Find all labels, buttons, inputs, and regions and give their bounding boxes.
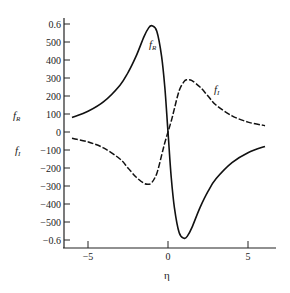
y-ticks: 0.65004003002001000−100−200−300−400−500−…: [40, 19, 70, 246]
x-tick-label: 0: [166, 251, 171, 262]
curve-label-fI: fI: [214, 83, 220, 97]
y-tick-label: −300: [40, 181, 61, 192]
x-tick-label: 5: [246, 251, 251, 262]
x-ticks: −505: [83, 241, 251, 262]
y-tick-label: −400: [40, 199, 61, 210]
y-tick-label: 300: [46, 73, 61, 84]
y-tick-label: 500: [46, 37, 61, 48]
y-tick-label: −100: [40, 145, 61, 156]
chart: 0.65004003002001000−100−200−300−400−500−…: [0, 0, 290, 293]
y-tick-label: −0.6: [43, 235, 61, 246]
curve-label-fR: fR: [149, 38, 157, 52]
series-f-i: [72, 80, 265, 185]
y-label-fI: fI: [15, 144, 21, 158]
y-tick-label: 0: [56, 127, 61, 138]
y-tick-label: 200: [46, 91, 61, 102]
x-tick-label: −5: [83, 251, 94, 262]
y-tick-label: −200: [40, 163, 61, 174]
series: [72, 26, 265, 239]
y-tick-label: 400: [46, 55, 61, 66]
y-tick-label: −500: [40, 217, 61, 228]
x-axis-label: η: [164, 269, 170, 281]
y-tick-label: 100: [46, 109, 61, 120]
y-tick-label: 0.6: [49, 19, 62, 30]
y-label-fR: fR: [13, 109, 21, 123]
